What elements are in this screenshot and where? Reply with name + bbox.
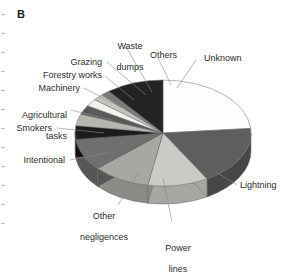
other-negligences-line2: negligences (80, 232, 128, 242)
slice-label-lightning: Lightning (240, 180, 277, 191)
power-lines-line1: Power (165, 243, 191, 253)
waste-dumps-line1: Waste (117, 41, 142, 51)
power-lines-line2: lines (169, 264, 188, 274)
slice-label-grazing: Grazing (40, 57, 102, 68)
slice-label-machinery: Machinery (12, 83, 80, 94)
slice-label-waste-dumps: Waste dumps (100, 30, 150, 83)
slice-label-agricultural-tasks: Agricultural tasks (5, 99, 67, 152)
slice-label-others: Others (150, 50, 177, 61)
agricultural-line2: tasks (46, 131, 67, 141)
slice-label-power-lines: Power lines Power lines (150, 222, 196, 276)
pie-slice-unknown (163, 80, 251, 133)
pie-slices-group (75, 80, 251, 204)
agricultural-line1: Agricultural (22, 110, 67, 120)
other-negligences-line1: Other (93, 211, 116, 221)
waste-dumps-line2: dumps (117, 62, 144, 72)
slice-label-intentional: Intentional (5, 155, 65, 166)
slice-label-other-negligences: Other negligences (62, 200, 136, 253)
slice-label-unknown: Unknown (204, 53, 242, 64)
slice-label-forestry-works: Forestry works (8, 70, 102, 81)
